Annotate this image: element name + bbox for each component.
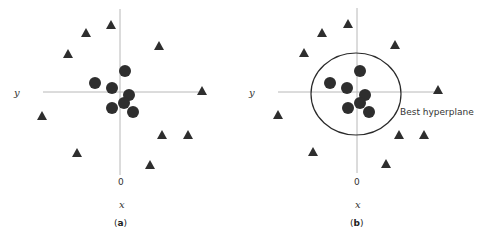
triangle-data-point <box>394 130 404 139</box>
triangle-data-point <box>106 20 116 29</box>
triangle-data-point <box>37 111 47 120</box>
hyperplane-annotation: Best hyperplane <box>400 107 474 117</box>
triangle-data-point <box>381 159 391 168</box>
triangle-data-point <box>308 147 318 156</box>
data-points <box>273 19 443 168</box>
circle-data-point <box>106 82 118 94</box>
triangle-data-point <box>197 86 207 95</box>
triangle-data-point <box>419 130 429 139</box>
origin-label: 0 <box>354 177 360 187</box>
circle-data-point <box>324 77 336 89</box>
triangle-data-point <box>433 85 443 94</box>
circle-data-point <box>342 102 354 114</box>
triangle-data-point <box>157 130 167 139</box>
triangle-data-point <box>183 130 193 139</box>
triangle-data-point <box>72 148 82 157</box>
circle-data-point <box>106 102 118 114</box>
panel-caption: (b) <box>350 218 363 228</box>
x-axis-label: x <box>119 199 125 210</box>
triangle-data-point <box>343 19 353 28</box>
triangle-data-point <box>145 160 155 169</box>
circle-data-point <box>89 77 101 89</box>
triangle-data-point <box>299 48 309 57</box>
triangle-data-point <box>273 110 283 119</box>
circle-data-point <box>118 97 130 109</box>
circle-data-point <box>363 106 375 118</box>
triangle-data-point <box>81 28 91 37</box>
triangle-data-point <box>390 40 400 49</box>
triangle-data-point <box>154 41 164 50</box>
circle-data-point <box>354 65 366 77</box>
circle-data-point <box>127 106 139 118</box>
x-axis-label: x <box>355 199 361 210</box>
circle-data-point <box>354 97 366 109</box>
origin-label: 0 <box>118 177 124 187</box>
triangle-data-point <box>317 28 327 37</box>
y-axis-label: y <box>13 87 20 98</box>
best-hyperplane-circle <box>311 53 401 135</box>
panel-a: y 0 x (a) <box>13 9 207 228</box>
triangle-data-point <box>63 49 73 58</box>
y-axis-label: y <box>248 87 255 98</box>
panel-b: y 0 x Best hyperplane (b) <box>248 8 474 228</box>
data-points <box>37 20 207 169</box>
circle-data-point <box>119 65 131 77</box>
figure: y 0 x (a) y 0 x Best hyperplane (b) <box>0 0 481 241</box>
panel-caption: (a) <box>114 218 127 228</box>
circle-data-point <box>341 82 353 94</box>
